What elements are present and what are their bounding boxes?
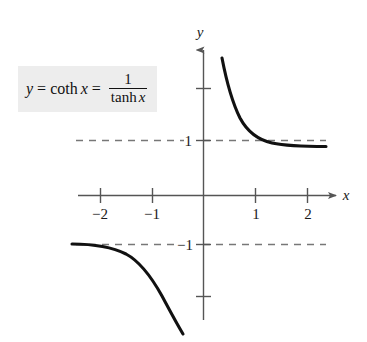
equation-lhs-variable: y	[26, 81, 33, 97]
plot-canvas: −2 −1 1 2 1 −1 x y	[0, 0, 367, 342]
fraction-denominator-function: tanh	[111, 89, 137, 105]
x-tick-label-1: 1	[252, 206, 260, 222]
x-tick-label-minus-2: −2	[92, 206, 108, 222]
coth-graph-figure: −2 −1 1 2 1 −1 x y y = coth x = 1 tanhx	[0, 0, 367, 342]
equation-row: y = coth x = 1 tanhx	[26, 72, 147, 105]
fraction-denominator-argument: x	[139, 89, 146, 105]
curve-coth-negative-branch	[72, 244, 183, 334]
curve-coth-positive-branch	[222, 58, 326, 147]
equation-equals-first: =	[37, 81, 46, 97]
equation-function-name: coth	[50, 81, 78, 97]
y-axis-label: y	[195, 24, 204, 40]
equation-fraction: 1 tanhx	[109, 72, 148, 105]
y-tick-label-minus-1: −1	[177, 237, 193, 253]
x-tick-label-2: 2	[304, 206, 312, 222]
equation-function-argument: x	[81, 81, 88, 97]
x-axis-label: x	[342, 187, 350, 203]
x-tick-label-minus-1: −1	[144, 206, 160, 222]
fraction-numerator: 1	[120, 72, 136, 88]
y-tick-label-1: 1	[185, 133, 193, 149]
equation-equals-second: =	[92, 81, 101, 97]
fraction-denominator: tanhx	[109, 89, 148, 105]
equation-label: y = coth x = 1 tanhx	[18, 66, 157, 112]
